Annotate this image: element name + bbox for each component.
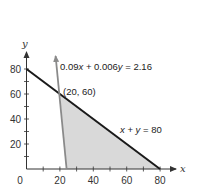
x-tick-label: 80 bbox=[155, 175, 167, 186]
label-part: = 2.16 bbox=[123, 61, 152, 72]
label-part: + bbox=[125, 124, 136, 135]
label-part: = 80 bbox=[140, 124, 161, 135]
label-part: 0.09 bbox=[60, 61, 79, 72]
y-tick-label: 60 bbox=[10, 89, 22, 100]
intersection-point-label: (20, 60) bbox=[63, 86, 96, 97]
y-tick-label: 20 bbox=[10, 139, 22, 150]
cost-constraint-label: 0.09x + 0.006y = 2.16 bbox=[60, 61, 152, 72]
y-axis-label: y bbox=[21, 38, 28, 49]
label-part: + 0.006 bbox=[83, 61, 118, 72]
feasible-region-chart: 0 20 40 60 80 20 40 60 80 x y 0.09x + 0.… bbox=[0, 0, 197, 192]
y-tick-label: 40 bbox=[10, 114, 22, 125]
x-tick-label: 0 bbox=[17, 175, 23, 186]
x-tick-label: 40 bbox=[88, 175, 100, 186]
sum-constraint-label: x + y = 80 bbox=[119, 124, 162, 135]
x-axis-label: x bbox=[180, 163, 186, 174]
x-tick-label: 60 bbox=[121, 175, 133, 186]
y-tick-label: 80 bbox=[10, 64, 22, 75]
x-tick-label: 20 bbox=[54, 175, 66, 186]
